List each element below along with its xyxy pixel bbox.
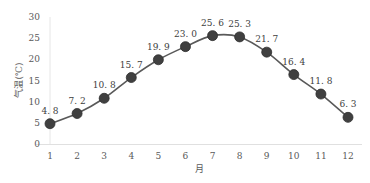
data-point-marker [235, 32, 245, 42]
x-tick-label: 3 [101, 151, 107, 161]
data-label: 16. 4 [282, 57, 305, 67]
y-tick-label: 25 [29, 33, 41, 43]
data-point-marker [180, 42, 190, 52]
data-label: 6. 3 [339, 99, 356, 109]
data-label: 25. 3 [228, 19, 251, 29]
data-label: 4. 8 [41, 106, 58, 116]
y-tick-label: 5 [34, 118, 40, 128]
data-label: 25. 6 [201, 18, 224, 28]
y-tick-label: 0 [34, 139, 40, 149]
x-tick-label: 8 [237, 151, 243, 161]
data-point-marker [316, 89, 326, 99]
temperature-line [50, 35, 348, 124]
x-tick-label: 5 [155, 151, 161, 161]
y-tick-labels: 051015202530 [29, 12, 41, 149]
data-point-marker [208, 31, 218, 41]
data-point-marker [126, 73, 136, 83]
data-point-marker [262, 47, 272, 57]
data-label: 11. 8 [309, 76, 332, 86]
x-tick-label: 7 [210, 151, 216, 161]
data-point-marker [343, 112, 353, 122]
y-axis-title: 气温(℃) [13, 62, 24, 97]
x-tick-label: 4 [128, 151, 134, 161]
data-label: 21. 7 [255, 34, 278, 44]
y-tick-label: 15 [29, 76, 41, 86]
y-tick-label: 30 [29, 12, 41, 22]
data-point-marker [289, 70, 299, 80]
data-label: 7. 2 [68, 96, 85, 106]
data-point-marker [153, 55, 163, 65]
data-markers [45, 31, 353, 129]
temperature-line-chart: 051015202530 123456789101112 气温(℃) 月 4. … [0, 0, 370, 183]
y-tick-label: 20 [29, 54, 41, 64]
x-tick-label: 6 [183, 151, 189, 161]
x-tick-labels: 123456789101112 [47, 151, 354, 161]
data-label: 19. 9 [147, 42, 170, 52]
x-axis-title: 月 [195, 164, 204, 174]
data-labels: 4. 87. 210. 815. 719. 923. 025. 625. 321… [41, 18, 356, 116]
data-label: 23. 0 [174, 29, 197, 39]
y-tick-label: 10 [29, 97, 41, 107]
x-tick-label: 10 [288, 151, 300, 161]
data-label: 10. 8 [93, 80, 116, 90]
data-point-marker [45, 119, 55, 129]
x-tick-label: 9 [264, 151, 270, 161]
x-tick-label: 11 [315, 151, 326, 161]
x-tick-label: 1 [47, 151, 53, 161]
data-point-marker [72, 109, 82, 119]
data-label: 15. 7 [120, 60, 143, 70]
x-tick-label: 12 [342, 151, 353, 161]
data-point-marker [99, 93, 109, 103]
x-tick-label: 2 [74, 151, 80, 161]
